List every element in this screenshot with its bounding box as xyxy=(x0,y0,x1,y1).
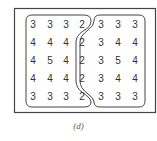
grid-cell: 3 xyxy=(98,19,104,30)
grid-cell: 4 xyxy=(63,73,69,84)
grid-cell: 4 xyxy=(30,55,36,66)
grid-cell: 3 xyxy=(98,37,104,48)
grid-cell: 3 xyxy=(63,91,69,102)
grid-cell: 2 xyxy=(79,91,85,102)
figure-caption: (d) xyxy=(0,121,157,131)
grid-cell: 4 xyxy=(30,37,36,48)
grid-cell: 4 xyxy=(30,73,36,84)
grid-cell: 4 xyxy=(115,37,121,48)
grid-cell: 3 xyxy=(63,19,69,30)
grid-cell: 2 xyxy=(79,37,85,48)
grid-cell: 3 xyxy=(132,91,138,102)
grid-cell: 5 xyxy=(47,55,53,66)
grid-cell: 3 xyxy=(30,91,36,102)
grid-cell: 3 xyxy=(98,73,104,84)
grid-cell: 3 xyxy=(115,19,121,30)
grid-cell: 3 xyxy=(98,55,104,66)
grid-cell: 3 xyxy=(47,19,53,30)
grid-cell: 2 xyxy=(79,19,85,30)
segmentation-diagram: 33323334442344454235444423443332333 xyxy=(0,0,157,141)
grid-cell: 4 xyxy=(132,73,138,84)
grid-cell: 4 xyxy=(115,73,121,84)
grid-cell: 2 xyxy=(79,73,85,84)
grid-cell: 4 xyxy=(132,37,138,48)
grid-cell: 3 xyxy=(98,91,104,102)
value-grid: 33323334442344454235444423443332333 xyxy=(30,19,138,102)
grid-cell: 2 xyxy=(79,55,85,66)
grid-cell: 4 xyxy=(63,37,69,48)
grid-cell: 4 xyxy=(132,55,138,66)
grid-cell: 4 xyxy=(47,73,53,84)
grid-cell: 3 xyxy=(47,91,53,102)
grid-cell: 5 xyxy=(115,55,121,66)
grid-cell: 3 xyxy=(30,19,36,30)
grid-cell: 4 xyxy=(47,37,53,48)
grid-cell: 4 xyxy=(63,55,69,66)
grid-cell: 3 xyxy=(115,91,121,102)
grid-cell: 3 xyxy=(132,19,138,30)
